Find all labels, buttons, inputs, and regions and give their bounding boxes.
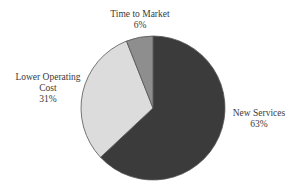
label-new-services-pct: 63% xyxy=(226,119,292,130)
label-lower-operating-cost: Lower Operating Cost 31% xyxy=(8,72,88,105)
label-lower-operating-cost-pct: 31% xyxy=(8,94,88,105)
label-time-to-market: Time to Market 6% xyxy=(100,9,180,31)
label-lower-operating-cost-line1: Lower Operating xyxy=(8,72,88,83)
label-lower-operating-cost-line2: Cost xyxy=(8,83,88,94)
label-time-to-market-pct: 6% xyxy=(100,20,180,31)
label-new-services: New Services 63% xyxy=(226,108,292,130)
label-new-services-name: New Services xyxy=(226,108,292,119)
label-time-to-market-name: Time to Market xyxy=(100,9,180,20)
